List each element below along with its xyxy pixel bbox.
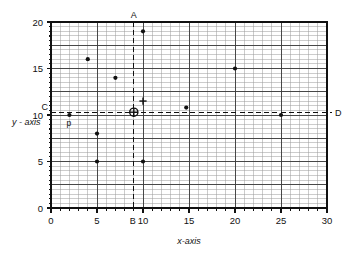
data-point — [279, 113, 283, 117]
data-point — [184, 105, 188, 109]
data-point — [86, 57, 90, 61]
reference-label-b: B — [130, 216, 136, 226]
data-point — [95, 159, 99, 163]
x-tick-label: 25 — [276, 215, 287, 226]
data-point — [67, 113, 71, 117]
plot-canvas: 05101520253005101520 ABCD p x-axis y - a… — [0, 0, 363, 254]
x-tick-label: 20 — [230, 215, 241, 226]
x-tick-label: 30 — [322, 215, 333, 226]
y-tick-label: 5 — [38, 156, 43, 167]
y-tick-label: 15 — [32, 63, 43, 74]
x-axis-title: x-axis — [176, 236, 201, 246]
data-point — [141, 29, 145, 33]
x-tick-label: 10 — [138, 215, 149, 226]
data-point — [233, 66, 237, 70]
reference-label-d: D — [335, 108, 342, 118]
data-point — [95, 132, 99, 136]
data-point — [113, 76, 117, 80]
scatter-plot-figure: 05101520253005101520 ABCD p x-axis y - a… — [0, 0, 363, 254]
data-point — [141, 159, 145, 163]
centroid-marker — [130, 108, 138, 116]
data-point-labels: p — [67, 118, 72, 128]
reference-label-c: C — [42, 102, 49, 112]
x-tick-label: 5 — [94, 215, 99, 226]
reference-label-a: A — [131, 10, 137, 20]
y-tick-label: 0 — [38, 203, 43, 214]
data-point-label: p — [67, 118, 72, 128]
y-axis-title: y - axis — [11, 117, 41, 127]
y-tick-label: 20 — [32, 17, 43, 28]
x-tick-label: 15 — [184, 215, 195, 226]
x-tick-label: 0 — [48, 215, 53, 226]
